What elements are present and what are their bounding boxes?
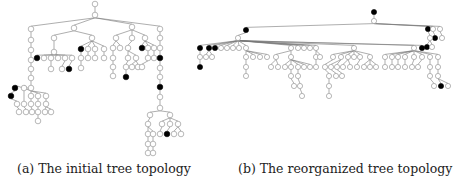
filled-tree-node [157, 84, 163, 90]
tree-nodes [8, 1, 184, 156]
hollow-tree-node [288, 45, 293, 50]
hollow-tree-node [250, 54, 255, 59]
filled-tree-node [212, 45, 217, 50]
tree-edge [160, 127, 162, 131]
tree-edge [148, 118, 150, 121]
hollow-tree-node [415, 64, 420, 69]
hollow-tree-node [117, 45, 123, 51]
hollow-tree-node [171, 131, 177, 137]
hollow-tree-node [339, 73, 344, 78]
reorganized-tree-diagram [190, 0, 460, 120]
tree-edge [325, 60, 333, 65]
hollow-tree-node [28, 26, 34, 32]
filled-tree-node [371, 9, 376, 14]
hollow-tree-node [43, 101, 49, 107]
hollow-tree-node [150, 131, 156, 137]
hollow-tree-node [351, 54, 356, 59]
tree-edge [206, 51, 209, 55]
hollow-tree-node [41, 55, 47, 61]
hollow-tree-node [145, 45, 151, 51]
tree-edge [354, 51, 370, 55]
filled-tree-node [123, 74, 129, 80]
tree-edge [440, 32, 442, 36]
tree-edge [174, 127, 178, 131]
hollow-tree-node [301, 45, 306, 50]
hollow-tree-node [427, 35, 432, 40]
hollow-tree-node [23, 109, 29, 115]
hollow-tree-node [297, 83, 302, 88]
tree-edge [132, 30, 145, 35]
tree-edge [116, 30, 132, 35]
tree-edge [24, 107, 26, 109]
hollow-tree-node [42, 109, 48, 115]
hollow-tree-node [268, 64, 273, 69]
tree-edge [167, 127, 170, 131]
filled-tree-node [139, 45, 145, 51]
hollow-tree-node [28, 93, 34, 99]
hollow-tree-node [351, 45, 356, 50]
tree-edge [62, 61, 65, 66]
hollow-tree-node [167, 112, 173, 118]
hollow-tree-node [295, 73, 300, 78]
hollow-tree-node [402, 54, 407, 59]
hollow-tree-node [125, 55, 131, 61]
filled-tree-node [12, 85, 18, 91]
tree-edge [331, 70, 336, 74]
hollow-tree-node [157, 65, 163, 71]
hollow-tree-node [48, 66, 54, 72]
tree-edge [178, 127, 181, 131]
tree-edge [298, 79, 300, 84]
hollow-tree-node [28, 37, 34, 43]
tree-edge [209, 51, 212, 55]
hollow-tree-node [197, 54, 202, 59]
hollow-tree-node [159, 121, 165, 127]
hollow-tree-node [129, 35, 135, 41]
tree-edge [427, 41, 430, 45]
hollow-tree-node [317, 54, 322, 59]
tree-edge [433, 32, 435, 36]
tree-edge [238, 33, 246, 36]
hollow-tree-node [16, 109, 22, 115]
hollow-tree-node [243, 73, 248, 78]
tree-edge [291, 60, 310, 65]
filled-tree-node [206, 45, 211, 50]
hollow-tree-node [150, 141, 156, 147]
hollow-tree-node [389, 54, 394, 59]
tree-edge [142, 41, 145, 45]
hollow-tree-node [445, 83, 450, 88]
hollow-tree-node [326, 93, 331, 98]
hollow-tree-node [29, 109, 35, 115]
hollow-tree-node [113, 35, 119, 41]
hollow-tree-node [367, 64, 372, 69]
tree-edge [11, 99, 17, 101]
hollow-tree-node [85, 46, 91, 52]
filled-tree-node [424, 44, 429, 49]
hollow-tree-node [89, 35, 95, 41]
hollow-tree-node [313, 45, 318, 50]
hollow-tree-node [419, 54, 424, 59]
hollow-tree-node [125, 45, 131, 51]
hollow-tree-node [301, 64, 306, 69]
hollow-tree-node [51, 49, 57, 55]
hollow-tree-node [282, 64, 287, 69]
filled-tree-node [164, 131, 170, 137]
hollow-tree-node [71, 25, 77, 31]
tree-edge [170, 118, 178, 121]
hollow-tree-node [313, 64, 318, 69]
tree-edge [370, 60, 376, 65]
hollow-tree-node [322, 64, 327, 69]
hollow-tree-node [101, 46, 107, 52]
hollow-tree-node [273, 54, 278, 59]
hollow-tree-node [218, 45, 223, 50]
hollow-tree-node [236, 45, 241, 50]
tree-edge [148, 127, 153, 131]
hollow-tree-node [295, 64, 300, 69]
hollow-tree-node [411, 54, 416, 59]
hollow-tree-node [110, 64, 116, 70]
hollow-tree-node [14, 101, 20, 107]
hollow-tree-node [437, 26, 442, 31]
hollow-tree-node [203, 54, 208, 59]
tree-edge [412, 60, 414, 65]
tree-edge [31, 107, 32, 109]
hollow-tree-node [92, 46, 98, 52]
